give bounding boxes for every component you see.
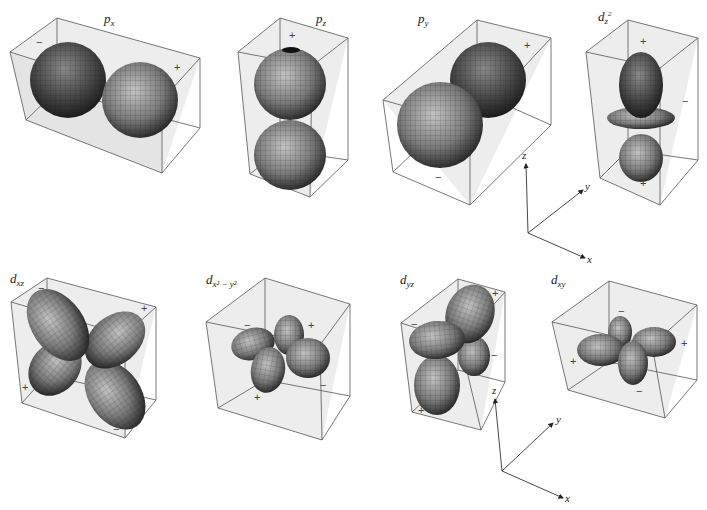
sign-px-pos: + [174,62,180,73]
axis-label-z-bottom: z [492,385,496,396]
label-dxy: dxy [551,273,566,289]
label-pz: pz [316,12,326,28]
sign-dxy-2: + [681,338,687,349]
sign-dyz-3: − [491,350,497,361]
sign-dxy-4: − [636,386,642,397]
sign-dx2y2-1: − [244,320,250,331]
sign-pz-neg: − [289,176,295,187]
sign-py-pos: + [524,40,530,51]
orbital-diagram [0,0,707,510]
label-px: px [104,12,115,28]
sign-py-neg: − [435,172,441,183]
axis-label-y-top: y [585,181,590,192]
sign-dz2-ring-neg: − [682,96,688,107]
axis-label-z-top: z [522,150,526,161]
sign-dxz-1: − [38,283,44,294]
label-py: py [418,12,429,28]
sign-dxy-1: − [618,306,624,317]
label-dx2y2: dx² − y² [206,273,236,289]
label-dyz: dyz [400,273,414,289]
sign-dxz-2: + [141,303,147,314]
sign-pz-pos: + [289,30,295,41]
axes-triad-bottom [495,399,563,498]
axis-label-y-bottom: y [556,414,561,425]
sign-dxz-3: + [22,382,28,393]
axes-triad-top [526,164,585,258]
sign-dxy-3: + [570,356,576,367]
sign-dyz-1: − [411,319,417,330]
sign-dyz-2: + [492,288,498,299]
label-dxz: dxz [10,272,24,288]
axis-label-x-top: x [587,254,592,265]
sign-dx2y2-2: + [308,320,314,331]
sign-dxz-4: − [113,424,119,435]
label-dz2: dz2 [598,10,612,26]
sign-dx2y2-4: − [320,380,326,391]
axis-label-x-bottom: x [565,493,570,504]
sign-dz2-top-pos: + [640,36,646,47]
sign-dyz-4: + [418,405,424,416]
sign-dz2-bottom-pos: + [640,178,646,189]
sign-px-neg: − [36,37,42,48]
orbital-py-lobes [397,42,526,168]
sign-dx2y2-3: + [254,392,260,403]
